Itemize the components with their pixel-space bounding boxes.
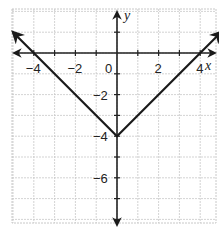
absolute-value-curve: [13, 32, 219, 136]
x-tick-label: −4: [26, 61, 41, 76]
x-tick-label: 2: [155, 61, 162, 76]
x-axis-label: x: [204, 58, 212, 73]
y-tick-label: −2: [93, 88, 108, 103]
coordinate-graph: −4−2024−2−4−6 x y: [0, 0, 219, 230]
y-tick-label: −4: [93, 129, 108, 144]
tick-labels: −4−2024−2−4−6: [26, 61, 204, 186]
curve: [13, 32, 219, 136]
axes: [14, 12, 215, 225]
x-tick-label: −2: [67, 61, 82, 76]
y-axis-label: y: [122, 8, 131, 23]
x-tick-label: 0: [105, 61, 112, 76]
x-tick-label: 4: [196, 61, 203, 76]
y-tick-label: −6: [93, 171, 108, 186]
